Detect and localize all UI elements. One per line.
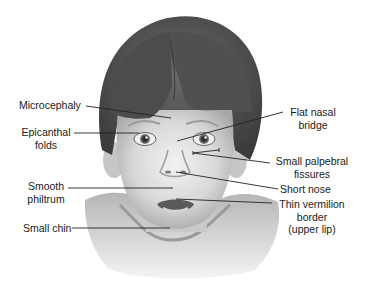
label-small-chin: Small chin (23, 222, 71, 235)
label-flat-nasal-bridge: Flat nasal bridge (285, 106, 341, 131)
label-short-nose: Short nose (280, 183, 331, 196)
label-epicanthal-folds: Epicanthal folds (19, 126, 73, 151)
label-smooth-philtrum: Smooth philtrum (25, 180, 67, 205)
label-small-palpebral-fissures: Small palpebral fissures (271, 155, 353, 180)
label-microcephaly: Microcephaly (19, 99, 81, 112)
label-thin-vermilion-border: Thin vermilion border (upper lip) (274, 198, 350, 236)
fas-face-diagram: Microcephaly Epicanthal folds Smooth phi… (0, 0, 366, 288)
